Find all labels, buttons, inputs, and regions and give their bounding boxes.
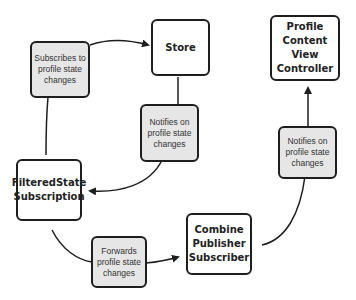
note-subscribes-label: Subscribes to profile state changes <box>34 53 86 86</box>
node-filteredstate-subscription: FilteredState Subscription <box>16 159 82 221</box>
edge-filtered-to-forwards <box>52 230 92 262</box>
node-store: Store <box>151 19 210 76</box>
note-notifies-vc: Notifies on profile state changes <box>278 126 337 179</box>
node-combine-publisher-subscriber: Combine Publisher Subscriber <box>186 213 252 275</box>
node-combine-label: Combine Publisher Subscriber <box>188 223 250 265</box>
edge-forwards-to-combine <box>146 257 178 263</box>
note-forwards: Forwards profile state changes <box>91 236 147 288</box>
node-profile-vc-label: Profile Content View Controller <box>272 20 338 76</box>
note-forwards-label: Forwards profile state changes <box>95 246 143 279</box>
note-subscribes: Subscribes to profile state changes <box>30 41 90 98</box>
edge-combine-to-notes <box>262 176 305 245</box>
node-filtered-label: FilteredState Subscription <box>12 176 86 204</box>
edge-subscribes-tail <box>46 97 48 155</box>
note-notifies-store-label: Notifies on profile state changes <box>144 117 195 150</box>
node-store-label: Store <box>165 41 196 55</box>
note-notifies-store: Notifies on profile state changes <box>140 104 199 162</box>
node-profile-content-view-controller: Profile Content View Controller <box>270 15 340 81</box>
note-notifies-vc-label: Notifies on profile state changes <box>282 136 333 169</box>
edge-notes-to-filtered <box>90 160 162 191</box>
edge-subscribes-to-store <box>90 40 148 45</box>
